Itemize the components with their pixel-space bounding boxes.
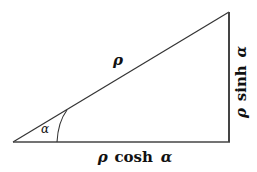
opposite-label: ρ sinh α <box>232 46 250 120</box>
adjacent-label-arg: α <box>161 148 173 166</box>
opposite-label-arg: α <box>232 46 250 58</box>
opposite-label-group: ρ sinh α <box>232 46 250 120</box>
opposite-label-rho: ρ <box>232 107 250 119</box>
adjacent-label-rho: ρ <box>97 148 109 166</box>
angle-label: α <box>41 122 49 136</box>
adjacent-label: ρ cosh α <box>97 148 173 166</box>
adjacent-label-func: cosh <box>114 148 153 166</box>
opposite-label-func: sinh <box>232 65 250 101</box>
hypotenuse-label: ρ <box>112 51 124 69</box>
triangle-diagram: α ρ ρ cosh α ρ sinh α <box>0 0 257 172</box>
